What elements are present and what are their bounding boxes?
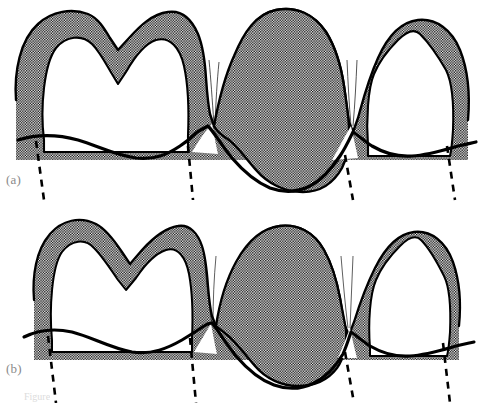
dental-illustration-svg xyxy=(0,0,479,403)
figure-caption-sliver: Figure xyxy=(24,391,50,402)
panel-a-middle-tooth xyxy=(214,9,349,192)
panel-b-label: (b) xyxy=(6,361,22,377)
dental-figure: (a) (b) Figure xyxy=(0,0,479,403)
panel-b-group xyxy=(0,200,479,403)
panel-b-middle-tooth xyxy=(216,226,346,386)
panel-a-label: (a) xyxy=(6,172,21,188)
panel-a-group xyxy=(0,0,479,200)
